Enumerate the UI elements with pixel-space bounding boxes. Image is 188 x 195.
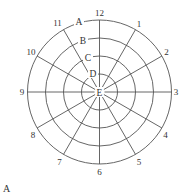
spoke-label-6: 6 [97,167,102,177]
spoke-label-4: 4 [163,130,168,140]
center-label-e: E [97,88,103,98]
spoke-label-7: 7 [57,157,62,167]
spoke-label-1: 1 [137,19,142,29]
ring-label-a: A [76,17,83,27]
spoke-label-12: 12 [95,8,104,18]
polar-diagram: A B C D E 12 1 2 3 4 5 6 7 8 9 10 11 A [0,0,188,195]
spoke-label-2: 2 [164,47,169,57]
spoke-label-8: 8 [31,130,36,140]
spoke-label-10: 10 [27,47,37,57]
spoke-label-9: 9 [20,87,25,97]
spoke-label-3: 3 [174,87,179,97]
ring-label-d: D [90,69,97,79]
ring-label-b: B [80,36,86,46]
spoke-label-11: 11 [53,18,62,28]
spoke-label-5: 5 [137,157,142,167]
figure-label: A [3,183,11,194]
ring-label-c: C [85,53,91,63]
